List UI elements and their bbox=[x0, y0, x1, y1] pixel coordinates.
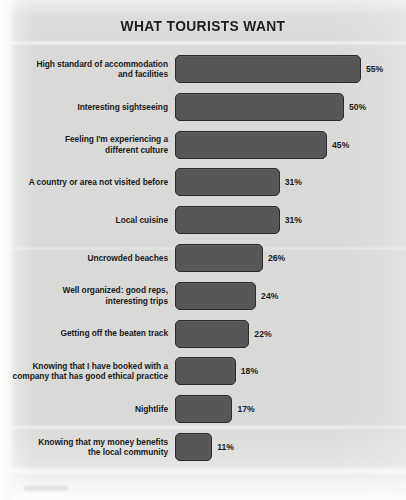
bar-category-label: Knowing that I have booked with acompany… bbox=[8, 354, 168, 388]
bar[interactable] bbox=[175, 93, 344, 121]
bar-category-label-line: Local cuisine bbox=[116, 215, 168, 226]
bar[interactable] bbox=[175, 282, 256, 310]
bar[interactable] bbox=[175, 168, 280, 196]
bar-row: Knowing that my money benefitsthe local … bbox=[0, 430, 406, 464]
bar-value-label: 31% bbox=[285, 177, 302, 187]
bar[interactable] bbox=[175, 55, 361, 83]
bar-category-label-line: A country or area not visited before bbox=[29, 177, 168, 188]
bar-value-label: 31% bbox=[285, 215, 302, 225]
bar-row: Feeling I'm experiencing adifferent cult… bbox=[0, 128, 406, 162]
bar[interactable] bbox=[175, 395, 232, 423]
bar-category-label-line: the local community bbox=[88, 447, 168, 458]
bar-track bbox=[175, 55, 361, 83]
bar-value-label: 22% bbox=[254, 329, 271, 339]
bar-value-label: 17% bbox=[237, 404, 254, 414]
bar-row: A country or area not visited before31% bbox=[0, 165, 406, 199]
bar[interactable] bbox=[175, 320, 249, 348]
bar-category-label-line: interesting trips bbox=[106, 296, 168, 307]
bar-row: Nightlife17% bbox=[0, 392, 406, 426]
bar-value-label: 45% bbox=[332, 140, 349, 150]
bar-category-label-line: Getting off the beaten track bbox=[61, 328, 169, 339]
bar-value-label: 11% bbox=[217, 442, 234, 452]
bar-category-label: Local cuisine bbox=[8, 203, 168, 237]
bar-category-label-line: High standard of accommodation bbox=[36, 59, 168, 70]
bar-row: Well organized: good reps,interesting tr… bbox=[0, 279, 406, 313]
bar-category-label-line: Uncrowded beaches bbox=[87, 253, 168, 264]
bar-category-label-line: Well organized: good reps, bbox=[62, 285, 168, 296]
bar[interactable] bbox=[175, 131, 327, 159]
bar-category-label: A country or area not visited before bbox=[8, 165, 168, 199]
bar-value-label: 50% bbox=[349, 102, 366, 112]
bar-category-label-line: Interesting sightseeing bbox=[77, 102, 168, 113]
bar-row: Interesting sightseeing50% bbox=[0, 90, 406, 124]
bar-category-label-line: company that has good ethical practice bbox=[13, 371, 168, 382]
bar-category-label-line: and facilities bbox=[118, 69, 168, 80]
bar-track bbox=[175, 93, 344, 121]
bar-category-label-line: Knowing that my money benefits bbox=[38, 437, 168, 448]
bar-category-label-line: Knowing that I have booked with a bbox=[32, 361, 168, 372]
bar-category-label: Knowing that my money benefitsthe local … bbox=[8, 430, 168, 464]
scan-artifact bbox=[24, 486, 68, 491]
bar-value-label: 18% bbox=[241, 366, 258, 376]
bar-track bbox=[175, 206, 280, 234]
bar-category-label: Interesting sightseeing bbox=[8, 90, 168, 124]
bar-category-label: Nightlife bbox=[8, 392, 168, 426]
bar[interactable] bbox=[175, 244, 263, 272]
bar-category-label-line: different culture bbox=[105, 145, 168, 156]
bar-chart-plot-area: High standard of accommodationand facili… bbox=[0, 52, 406, 472]
scan-band-upper bbox=[0, 40, 406, 46]
bar-category-label-line: Feeling I'm experiencing a bbox=[65, 134, 168, 145]
bar-row: Knowing that I have booked with acompany… bbox=[0, 354, 406, 388]
bar-track bbox=[175, 244, 263, 272]
chart-title: WHAT TOURISTS WANT bbox=[16, 17, 390, 34]
bar-value-label: 24% bbox=[261, 291, 278, 301]
bar-category-label: Feeling I'm experiencing adifferent cult… bbox=[8, 128, 168, 162]
bar-track bbox=[175, 168, 280, 196]
bar-track bbox=[175, 282, 256, 310]
bar-row: Uncrowded beaches26% bbox=[0, 241, 406, 275]
bar-category-label-line: Nightlife bbox=[135, 404, 168, 415]
bar-track bbox=[175, 433, 212, 461]
bar-category-label: Well organized: good reps,interesting tr… bbox=[8, 279, 168, 313]
bar-category-label: Getting off the beaten track bbox=[8, 317, 168, 351]
bar-row: Getting off the beaten track22% bbox=[0, 317, 406, 351]
chart-page: WHAT TOURISTS WANT High standard of acco… bbox=[0, 0, 406, 500]
bar-value-label: 26% bbox=[268, 253, 285, 263]
bar[interactable] bbox=[175, 357, 236, 385]
bar-value-label: 55% bbox=[366, 64, 383, 74]
bar-category-label: Uncrowded beaches bbox=[8, 241, 168, 275]
bar-track bbox=[175, 395, 232, 423]
bar[interactable] bbox=[175, 206, 280, 234]
bar-track bbox=[175, 357, 236, 385]
bar-track bbox=[175, 131, 327, 159]
bar-row: Local cuisine31% bbox=[0, 203, 406, 237]
bar-category-label: High standard of accommodationand facili… bbox=[8, 52, 168, 86]
bar-track bbox=[175, 320, 249, 348]
bar[interactable] bbox=[175, 433, 212, 461]
bar-row: High standard of accommodationand facili… bbox=[0, 52, 406, 86]
